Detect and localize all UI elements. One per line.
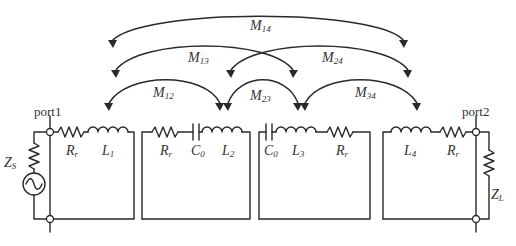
source-branch: ZS: [4, 132, 50, 219]
l3-inductor-icon: [276, 127, 316, 132]
l1-inductor-icon: [88, 127, 128, 132]
l4-inductor-icon: [391, 127, 431, 132]
zl-resistor-icon: [484, 150, 494, 176]
rr2-resistor-icon: [152, 127, 178, 137]
label-m12: M12: [152, 85, 174, 101]
l2-inductor-icon: [202, 127, 242, 132]
resonator-1: Rr L1: [50, 127, 134, 219]
rr3-resistor-icon: [327, 127, 353, 137]
resonator-2: Rr C0 L2: [142, 124, 250, 219]
rr4-resistor-icon: [440, 127, 466, 137]
coupling-m12: M12: [104, 80, 224, 111]
port2-label: port2: [462, 104, 489, 119]
label-m34: M34: [354, 85, 376, 101]
label-l1: L1: [101, 143, 114, 159]
label-c0-3: C0: [264, 143, 278, 159]
rr1-resistor-icon: [58, 127, 84, 137]
circuit-canvas: M14 M13 M24 M12 M23: [0, 0, 516, 246]
label-l4: L4: [403, 143, 417, 159]
resonator-4: L4 Rr: [383, 127, 476, 219]
c0-capacitor-icon: [266, 124, 272, 140]
port2-ground-terminal: [473, 216, 480, 223]
label-l2: L2: [221, 143, 235, 159]
label-l3: L3: [291, 143, 305, 159]
label-rr2: Rr: [159, 143, 173, 159]
label-m23: M23: [249, 88, 271, 104]
label-m24: M24: [321, 50, 343, 66]
coupling-arcs: M14 M13 M24 M12 M23: [104, 16, 421, 111]
label-m14: M14: [249, 18, 271, 34]
port1-label: port1: [34, 104, 61, 119]
load-branch: ZL: [476, 132, 504, 219]
coupling-m14: M14: [108, 16, 408, 48]
resonator-3: C0 L3 Rr: [259, 124, 370, 219]
port1-terminal: [47, 129, 54, 136]
label-rr3: Rr: [335, 143, 349, 159]
port2-terminal: [473, 129, 480, 136]
label-zs: ZS: [4, 155, 17, 171]
c0-capacitor-icon: [193, 124, 199, 140]
coupling-m34: M34: [300, 80, 421, 111]
zs-resistor-icon: [29, 143, 39, 169]
label-zl: ZL: [491, 187, 504, 203]
port1-ground-terminal: [47, 216, 54, 223]
label-rr4: Rr: [446, 143, 460, 159]
coupling-m23: M23: [223, 80, 302, 111]
label-c0-2: C0: [191, 143, 205, 159]
label-rr1: Rr: [65, 143, 79, 159]
circuit-diagram: M14 M13 M24 M12 M23: [0, 0, 516, 246]
label-m13: M13: [187, 50, 209, 66]
